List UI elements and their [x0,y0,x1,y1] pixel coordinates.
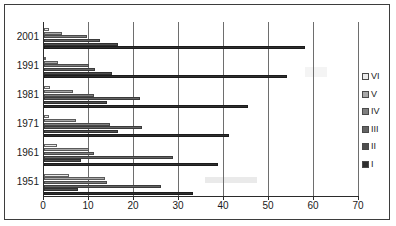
bar-1971-V [44,119,76,122]
legend-item-II[interactable]: II [362,141,376,152]
x-tick-label: 70 [346,200,370,211]
bar-1981-I [44,105,248,108]
legend-item-V[interactable]: V [362,89,377,100]
legend-label: VI [371,72,380,81]
bar-1951-I [44,192,193,195]
bar-1961-II [44,159,81,162]
bar-1971-VI [44,115,49,118]
bar-1991-I [44,75,287,78]
bar-1991-III [44,68,95,71]
legend-label: III [371,125,379,134]
bar-1971-IV [44,123,110,126]
legend-label: V [371,90,377,99]
legend-swatch-icon [362,73,369,80]
bar-2001-I [44,46,305,49]
plot-area [43,22,358,197]
bar-1981-II [44,101,107,104]
bar-1961-VI [44,144,57,147]
bar-1981-V [44,90,73,93]
bar-1951-II [44,188,78,191]
x-tick-label: 0 [31,200,55,211]
legend-item-III[interactable]: III [362,124,379,135]
bar-group-1971 [44,110,358,139]
x-axis-labels: 010203040506070 [43,200,358,214]
bar-1971-III [44,126,142,129]
legend-swatch-icon [362,126,369,133]
x-tick-label: 40 [211,200,235,211]
y-tick-label: 2001 [5,31,39,42]
legend-swatch-icon [362,161,369,168]
legend-label: I [371,160,374,169]
x-tick-label: 50 [256,200,280,211]
bar-1981-IV [44,94,94,97]
legend-item-VI[interactable]: VI [362,71,380,82]
bar-1951-III [44,185,161,188]
x-tick-label: 10 [76,200,100,211]
gridline-70 [358,22,359,197]
bar-1951-V [44,177,105,180]
x-tick-label: 20 [121,200,145,211]
x-tick-label: 60 [301,200,325,211]
chart-legend: VIVIVIIIIII [362,71,394,177]
legend-label: IV [371,107,380,116]
bar-2001-V [44,32,62,35]
bar-1961-IV [44,152,94,155]
bar-2001-IV [44,35,87,38]
bar-1981-III [44,97,140,100]
bar-1961-V [44,148,89,151]
bar-1991-II [44,72,112,75]
y-tick-label: 1991 [5,60,39,71]
legend-swatch-icon [362,91,369,98]
bar-1991-IV [44,64,89,67]
bar-1991-VI [44,57,46,60]
chart-frame: 200119911981197119611951 010203040506070… [4,4,390,220]
x-tick-label: 30 [166,200,190,211]
bar-group-1961 [44,139,358,168]
bar-1951-IV [44,181,107,184]
bar-2001-III [44,39,100,42]
legend-label: II [371,142,376,151]
chart-screenshot: 200119911981197119611951 010203040506070… [0,0,396,226]
legend-item-IV[interactable]: IV [362,106,380,117]
y-axis-labels: 200119911981197119611951 [5,22,39,197]
bar-1961-I [44,163,218,166]
bar-group-2001 [44,22,358,51]
bar-1971-II [44,130,118,133]
bar-group-1981 [44,80,358,109]
legend-item-I[interactable]: I [362,159,374,170]
y-tick-label: 1971 [5,118,39,129]
legend-swatch-icon [362,108,369,115]
bar-1981-VI [44,86,50,89]
bar-1971-I [44,134,229,137]
bar-2001-II [44,43,118,46]
bar-1961-III [44,156,173,159]
bar-1951-VI [44,174,69,177]
bar-2001-VI [44,28,49,31]
legend-swatch-icon [362,143,369,150]
bar-group-1951 [44,168,358,197]
bar-1991-V [44,61,58,64]
y-tick-label: 1961 [5,147,39,158]
y-tick-label: 1981 [5,89,39,100]
y-tick-label: 1951 [5,176,39,187]
bar-group-1991 [44,51,358,80]
